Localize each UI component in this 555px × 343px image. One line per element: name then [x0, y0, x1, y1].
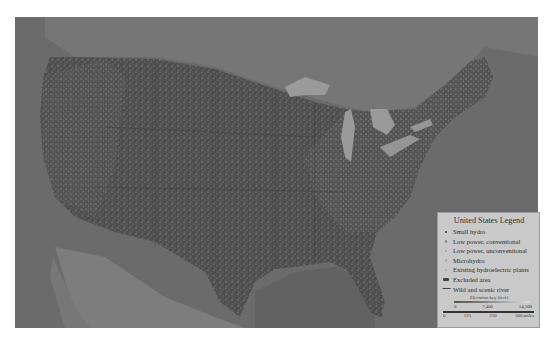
scale-ticks: 0 125 250 500 miles: [443, 313, 534, 318]
dot-icon: [442, 250, 450, 253]
river-line-icon: [442, 288, 450, 291]
elevation-gradient-bar: [454, 301, 530, 303]
legend-item-small-hydro: Small hydro: [442, 227, 536, 237]
dot-icon: [442, 269, 450, 272]
legend-item-excluded-area: Excluded area: [442, 275, 536, 285]
legend-item-low-power-unconventional: Low power, unconventional: [442, 246, 536, 256]
dot-icon: [442, 240, 450, 243]
dot-icon: [442, 231, 450, 234]
legend-item-low-power-conventional: Low power, conventional: [442, 237, 536, 247]
map-legend: United States Legend Small hydro Low pow…: [437, 212, 540, 328]
legend-title: United States Legend: [442, 216, 536, 225]
elevation-key-label: Elevation key (feet): [442, 295, 536, 300]
legend-item-existing-plants: Existing hydroelectric plants: [442, 265, 536, 275]
dot-icon: [442, 259, 450, 262]
legend-item-microhydro: Microhydro: [442, 256, 536, 266]
excluded-area-icon: [442, 278, 450, 281]
legend-item-wild-scenic-river: Wild and scenic river: [442, 285, 536, 295]
elevation-ticks: 0 7,400 14,500: [454, 304, 532, 309]
